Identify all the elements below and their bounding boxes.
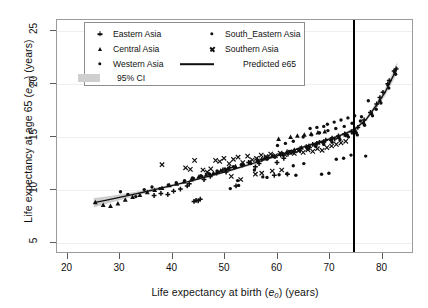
legend-label: Central Asia bbox=[113, 44, 159, 54]
legend-label: South_Eastern Asia bbox=[225, 29, 301, 39]
legend-label: 95% CI bbox=[117, 73, 145, 83]
legend-glyph bbox=[180, 63, 214, 65]
legend-marker-x-icon bbox=[203, 42, 221, 56]
x-tick-60 bbox=[277, 253, 278, 259]
x-tick-label-60: 60 bbox=[262, 262, 292, 273]
legend-glyph bbox=[98, 62, 101, 65]
x-tick-30 bbox=[119, 253, 120, 259]
x-tick-label-70: 70 bbox=[314, 262, 344, 273]
figure-root: Life expectancy at age 65 (e65) (years) … bbox=[0, 0, 428, 308]
legend-glyph bbox=[98, 47, 102, 51]
x-tick-label-50: 50 bbox=[209, 262, 239, 273]
x-tick-70 bbox=[329, 253, 330, 259]
legend-label: Predicted e65 bbox=[243, 59, 296, 69]
legend-marker-line-icon bbox=[203, 57, 221, 71]
y-axis-title-prefix: Life expectancy at age 65 ( bbox=[22, 94, 34, 223]
y-tick-label-10: 10 bbox=[28, 173, 39, 203]
y-tick-label-15: 15 bbox=[28, 120, 39, 150]
x-tick-label-30: 30 bbox=[104, 262, 134, 273]
legend-glyph bbox=[210, 47, 215, 52]
legend-label: Western Asia bbox=[113, 59, 163, 69]
y-tick-label-20: 20 bbox=[28, 66, 39, 96]
legend-glyph bbox=[210, 32, 213, 35]
y-tick-label-25: 25 bbox=[28, 13, 39, 43]
x-tick-50 bbox=[224, 253, 225, 259]
x-axis-title-prefix: Life expectancy at birth ( bbox=[151, 286, 268, 298]
x-tick-20 bbox=[67, 253, 68, 259]
legend-marker-dot-icon bbox=[91, 57, 109, 71]
x-axis-title-suffix: ) (years) bbox=[279, 286, 319, 298]
x-tick-label-80: 80 bbox=[367, 262, 397, 273]
x-tick-40 bbox=[172, 253, 173, 259]
legend-label: Southern Asia bbox=[225, 44, 279, 54]
legend-label: Eastern Asia bbox=[113, 29, 161, 39]
x-axis-title: Life expectancy at birth (e0) (years) bbox=[56, 286, 414, 300]
vertical-reference-line bbox=[353, 20, 355, 252]
legend-marker-plus-icon bbox=[91, 27, 109, 41]
legend-marker-band-icon bbox=[91, 71, 109, 85]
x-tick-80 bbox=[382, 253, 383, 259]
x-tick-label-40: 40 bbox=[157, 262, 187, 273]
legend-marker-dot-icon bbox=[203, 27, 221, 41]
legend-glyph bbox=[78, 74, 100, 82]
x-tick-label-20: 20 bbox=[52, 262, 82, 273]
legend-marker-triangle-icon bbox=[91, 42, 109, 56]
y-tick-label-5: 5 bbox=[28, 226, 39, 256]
legend-box: Eastern AsiaCentral AsiaWestern Asia95% … bbox=[84, 22, 305, 86]
legend-glyph bbox=[98, 33, 103, 35]
